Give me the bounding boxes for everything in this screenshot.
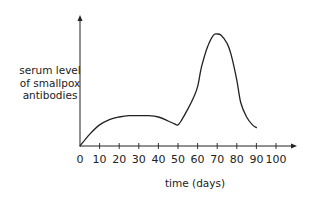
- x-tick-label: 0: [77, 153, 84, 166]
- x-tick-label: 100: [266, 153, 287, 166]
- x-tick-label: 60: [191, 153, 205, 166]
- x-tick-label: 20: [112, 153, 126, 166]
- x-axis-label: time (days): [150, 177, 240, 189]
- y-axis-arrow-icon: [78, 15, 83, 21]
- x-axis-tick-labels: 0102030405060708090100: [77, 153, 287, 166]
- x-tick-label: 10: [93, 153, 107, 166]
- antibody-curve: [80, 34, 256, 146]
- axes: [78, 15, 298, 149]
- x-axis-arrow-icon: [291, 144, 297, 149]
- x-tick-label: 40: [151, 153, 165, 166]
- x-tick-label: 70: [210, 153, 224, 166]
- antibody-chart: 0102030405060708090100: [0, 0, 313, 198]
- x-tick-label: 30: [132, 153, 146, 166]
- x-tick-label: 50: [171, 153, 185, 166]
- x-tick-label: 90: [249, 153, 263, 166]
- x-tick-label: 80: [230, 153, 244, 166]
